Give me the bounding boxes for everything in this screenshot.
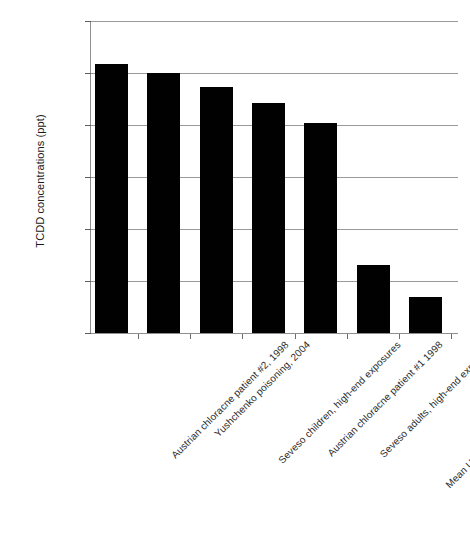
x-axis-category-label: Austrian chloracne patient #2, 1998 [169,339,291,461]
y-tick-mark [85,177,91,178]
x-tick-mark [242,334,243,339]
bar [409,297,442,333]
bar [95,64,128,333]
x-tick-mark [295,334,296,339]
bar [252,103,285,333]
y-tick-mark [85,125,91,126]
bar [357,265,390,333]
bar [200,87,233,333]
x-tick-mark [347,334,348,339]
bar [147,73,180,333]
x-tick-mark [138,334,139,339]
bar [304,123,337,333]
x-tick-mark [451,334,452,339]
x-axis-category-label: Yushchenko poisoning, 2004 [213,339,313,439]
y-tick-mark [85,281,91,282]
x-tick-mark [190,334,191,339]
x-tick-mark [399,334,400,339]
plot-area: 1,000,000.0100,000.010,000.01000.0100.01… [90,21,458,333]
y-tick-mark [85,333,91,334]
chart-container: TCDD concentrations (ppt) 1,000,000.0100… [0,0,470,554]
y-tick-mark [85,21,91,22]
y-gridline [90,73,458,74]
y-tick-mark [85,229,91,230]
y-tick-mark [85,73,91,74]
y-gridline [90,21,458,22]
y-axis-title: TCDD concentrations (ppt) [34,71,46,291]
y-gridline [90,333,458,334]
